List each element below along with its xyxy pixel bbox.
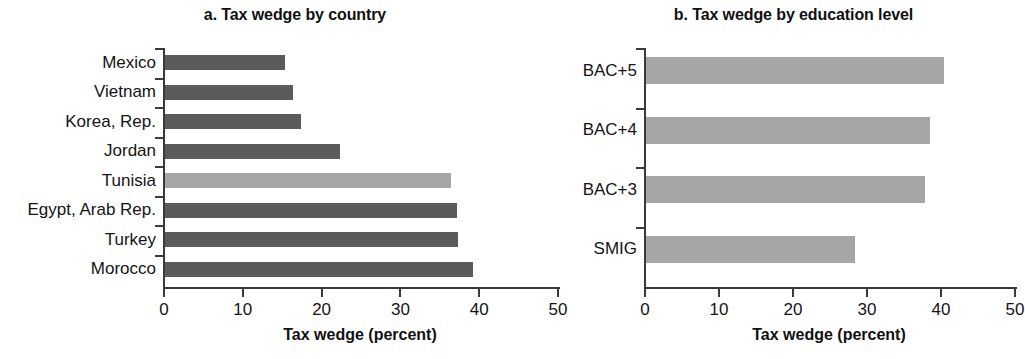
panel-a-y-tick xyxy=(155,48,164,50)
bar-vietnam xyxy=(165,85,293,100)
panel-a-y-tick xyxy=(155,107,164,109)
panel-a-x-tick xyxy=(321,289,323,297)
panel-b-x-tick-label: 40 xyxy=(915,301,967,318)
panel-a-x-tick-label: 0 xyxy=(138,301,190,318)
panel-b-y-tick xyxy=(636,227,645,229)
panel-b-x-axis-title: Tax wedge (percent) xyxy=(584,326,1025,344)
panel-a-x-tick xyxy=(399,289,401,297)
category-label-tunisia: Tunisia xyxy=(0,172,156,189)
panel-b-x-axis-line xyxy=(644,287,1017,289)
panel-b-y-tick xyxy=(636,167,645,169)
category-label-vietnam: Vietnam xyxy=(0,83,156,100)
panel-a-y-tick xyxy=(155,78,164,80)
panel-b-x-tick xyxy=(1014,289,1016,297)
panel-a-x-tick-label: 10 xyxy=(217,301,269,318)
category-label-egypt-arab-rep: Egypt, Arab Rep. xyxy=(0,201,156,218)
panel-a-tax-wedge-by-country: a. Tax wedge by country MexicoVietnamKor… xyxy=(0,0,512,359)
panel-b-title: b. Tax wedge by education level xyxy=(512,6,1025,24)
panel-b-y-tick xyxy=(636,48,645,50)
panel-b-x-tick-label: 30 xyxy=(841,301,893,318)
panel-b-x-tick-label: 10 xyxy=(693,301,745,318)
panel-b-x-tick xyxy=(644,289,646,297)
panel-a-y-tick xyxy=(155,137,164,139)
bar-korea-rep xyxy=(165,114,301,129)
panel-b-x-tick xyxy=(718,289,720,297)
bar-smig xyxy=(646,236,855,263)
panel-a-x-axis-line xyxy=(163,287,560,289)
panel-a-y-tick xyxy=(155,166,164,168)
panel-a-x-tick xyxy=(163,289,165,297)
bar-jordan xyxy=(165,144,340,159)
bar-egypt-arab-rep xyxy=(165,203,457,218)
category-label-bac-5: BAC+5 xyxy=(512,62,637,79)
category-label-bac-3: BAC+3 xyxy=(512,181,637,198)
bar-turkey xyxy=(165,232,458,247)
panel-b-tax-wedge-by-education-level: b. Tax wedge by education level BAC+5BAC… xyxy=(512,0,1025,359)
panel-b-x-tick xyxy=(866,289,868,297)
panel-b-x-tick xyxy=(940,289,942,297)
panel-b-x-tick xyxy=(792,289,794,297)
panel-a-y-tick xyxy=(155,225,164,227)
category-label-morocco: Morocco xyxy=(0,260,156,277)
panel-a-x-tick-label: 30 xyxy=(374,301,426,318)
bar-bac-5 xyxy=(646,57,944,84)
bar-bac-4 xyxy=(646,117,930,144)
category-label-mexico: Mexico xyxy=(0,54,156,71)
category-label-bac-4: BAC+4 xyxy=(512,121,637,138)
panel-b-x-tick-label: 50 xyxy=(989,301,1025,318)
panel-a-x-tick xyxy=(242,289,244,297)
panel-a-title: a. Tax wedge by country xyxy=(0,6,512,24)
panel-b-x-tick-label: 0 xyxy=(619,301,671,318)
bar-morocco xyxy=(165,262,473,277)
panel-a-y-tick xyxy=(155,196,164,198)
category-label-korea-rep: Korea, Rep. xyxy=(0,113,156,130)
bar-tunisia xyxy=(165,173,451,188)
category-label-smig: SMIG xyxy=(512,240,637,257)
figure-two-bar-charts: a. Tax wedge by country MexicoVietnamKor… xyxy=(0,0,1025,359)
bar-mexico xyxy=(165,55,285,70)
category-label-jordan: Jordan xyxy=(0,142,156,159)
panel-a-x-tick xyxy=(478,289,480,297)
category-label-turkey: Turkey xyxy=(0,231,156,248)
panel-a-x-tick-label: 40 xyxy=(453,301,505,318)
panel-a-x-tick-label: 20 xyxy=(296,301,348,318)
bar-bac-3 xyxy=(646,176,925,203)
panel-a-y-tick xyxy=(155,255,164,257)
panel-b-x-tick-label: 20 xyxy=(767,301,819,318)
panel-b-y-tick xyxy=(636,108,645,110)
